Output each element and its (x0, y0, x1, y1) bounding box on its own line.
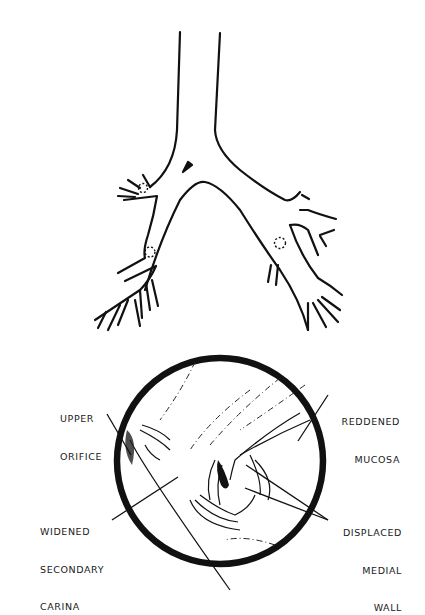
label-upper-orifice: UPPER ORIFICE (60, 388, 102, 488)
label-displaced-line3: WALL (318, 602, 402, 615)
scope-circle (117, 358, 323, 564)
label-displaced-line2: MEDIAL (318, 565, 402, 578)
label-reddened-mucosa-line2: MUCOSA (320, 454, 400, 467)
bronchoscopic-view (107, 358, 328, 590)
label-widened-line1: WIDENED (40, 526, 104, 539)
label-displaced-line1: DISPLACED (318, 527, 402, 540)
label-displaced-medial-wall: DISPLACED MEDIAL WALL (318, 502, 402, 615)
lumen-shadow (217, 460, 229, 489)
bronchial-tree (95, 32, 342, 330)
orifice-marker-left-lower (145, 247, 155, 257)
orifice-marker-right (275, 238, 286, 249)
label-reddened-mucosa-line1: REDDENED (320, 416, 400, 429)
label-widened-line2: SECONDARY (40, 564, 104, 577)
label-reddened-mucosa: REDDENED MUCOSA (320, 391, 400, 491)
label-upper-orifice-line2: ORIFICE (60, 451, 102, 464)
label-upper-orifice-line1: UPPER (60, 413, 102, 426)
label-widened-secondary-carina: WIDENED SECONDARY CARINA (40, 501, 104, 615)
label-widened-line3: CARINA (40, 601, 104, 614)
